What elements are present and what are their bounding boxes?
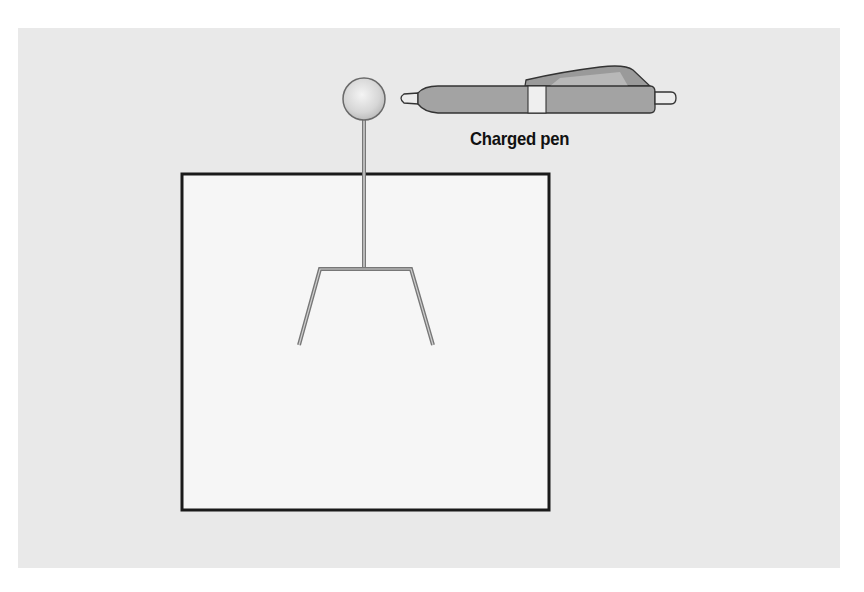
- pen-label: Charged pen: [470, 128, 569, 150]
- charged-pen: [401, 66, 676, 113]
- metal-sphere: [343, 78, 385, 120]
- electroscope-diagram: [0, 0, 864, 592]
